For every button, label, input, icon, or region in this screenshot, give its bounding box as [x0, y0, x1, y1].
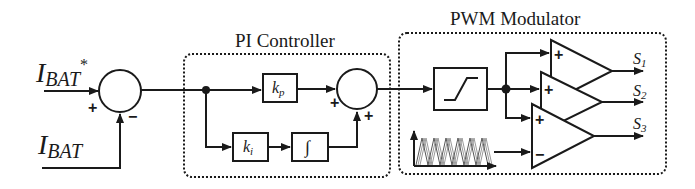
reference-current-label: IBAT *	[35, 56, 88, 90]
triangular-carrier-icon	[414, 131, 496, 166]
integrator-block	[292, 133, 328, 161]
plus-sign: +	[88, 99, 97, 116]
svg-text:IBAT: IBAT	[35, 57, 82, 90]
output-s3-label: S3	[633, 115, 647, 134]
plus-sign: +	[535, 111, 544, 128]
minus-sign: −	[128, 108, 137, 125]
plus-sign: +	[330, 94, 339, 111]
pi-summing-junction	[337, 69, 377, 109]
plus-sign: +	[364, 107, 373, 124]
plus-sign: +	[554, 46, 563, 63]
plus-sign: +	[544, 81, 553, 98]
comparator-3-input	[506, 89, 530, 118]
output-s1-label: S1	[633, 50, 647, 69]
error-summing-junction	[99, 70, 141, 112]
minus-sign: −	[535, 146, 544, 163]
output-s2-label: S2	[633, 82, 647, 101]
control-block-diagram: IBAT * IBAT + − PI Controller kp ki ∫ + …	[0, 0, 695, 189]
feedback-current-label: IBAT	[37, 129, 84, 162]
svg-text:IBAT: IBAT	[37, 129, 84, 162]
integrator-output-line	[328, 112, 357, 147]
pwm-modulator-title: PWM Modulator	[450, 8, 581, 29]
svg-text:*: *	[80, 56, 88, 73]
pi-controller-title: PI Controller	[235, 30, 335, 51]
integral-path	[206, 90, 231, 147]
